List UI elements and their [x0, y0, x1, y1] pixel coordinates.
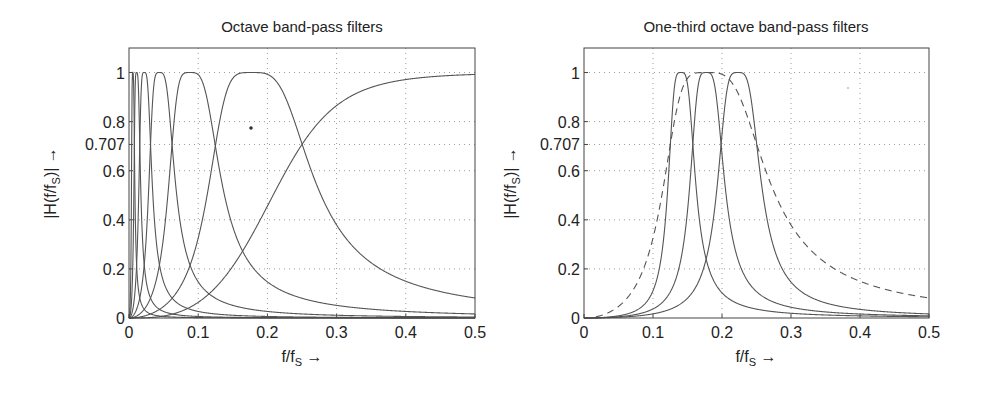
- x-tick-label: 0.4: [395, 324, 417, 341]
- right-chart-title: One-third octave band-pass filters: [643, 18, 868, 35]
- scan-speck: [847, 87, 849, 89]
- left-grid: [129, 48, 475, 318]
- x-tick-label: 0.2: [711, 324, 733, 341]
- filter-curve: [584, 73, 929, 318]
- x-tick-label: 0.1: [642, 324, 664, 341]
- y-tick-label: 0.8: [103, 114, 125, 131]
- filter-curve: [129, 73, 475, 318]
- filter-curve: [584, 73, 929, 318]
- filter-curve: [129, 73, 475, 318]
- x-tick-label: 0.3: [780, 324, 802, 341]
- x-tick-label: 0.2: [256, 324, 278, 341]
- right-x-tick-labels: 00.10.20.30.40.5: [580, 324, 941, 341]
- filter-curve: [129, 73, 475, 318]
- filter-curve: [584, 73, 929, 318]
- x-tick-label: 0.3: [325, 324, 347, 341]
- y-tick-label: 0.2: [103, 261, 125, 278]
- filter-curve: [129, 73, 475, 318]
- left-y-tick-labels: 00.20.40.60.7070.81: [85, 65, 125, 327]
- x-tick-label: 0.4: [849, 324, 871, 341]
- left-x-tick-labels: 00.10.20.30.40.5: [125, 324, 487, 341]
- filter-curve: [129, 73, 475, 318]
- left-chart: Octave band-pass filters 00.20.40.60.707…: [42, 18, 486, 368]
- x-tick-label: 0.5: [918, 324, 940, 341]
- filter-curve: [129, 74, 475, 318]
- x-tick-label: 0.1: [187, 324, 209, 341]
- left-x-axis-label: f/fS →: [281, 348, 322, 368]
- filter-curve: [584, 73, 929, 318]
- y-tick-label: 0.4: [103, 212, 125, 229]
- filter-curve: [129, 73, 475, 318]
- stray-marker-dot: [249, 126, 253, 130]
- right-y-tick-labels: 00.20.40.60.7070.81: [540, 65, 580, 327]
- y-tick-label: 0.6: [103, 163, 125, 180]
- right-grid: [584, 48, 929, 318]
- left-curves: [129, 73, 475, 318]
- y-tick-label: 1: [571, 65, 580, 82]
- y-tick-label: 0.4: [558, 212, 580, 229]
- right-curves: [584, 73, 929, 318]
- y-tick-label: 0.2: [558, 261, 580, 278]
- right-axes-box: [584, 48, 929, 318]
- right-x-axis-label: f/fS →: [735, 348, 776, 368]
- y-tick-label: 0.8: [558, 114, 580, 131]
- y-tick-label: 0.6: [558, 163, 580, 180]
- y-tick-label: 1: [116, 65, 125, 82]
- y-tick-label: 0.707: [540, 136, 580, 153]
- left-y-axis-label: |H(f/fS)| →: [42, 147, 62, 219]
- x-tick-label: 0: [580, 324, 589, 341]
- left-axes-box: [129, 48, 475, 318]
- right-y-axis-label: |H(f/fS)| →: [502, 147, 522, 219]
- figure: Octave band-pass filters 00.20.40.60.707…: [0, 0, 993, 396]
- y-tick-label: 0.707: [85, 136, 125, 153]
- x-tick-label: 0: [125, 324, 134, 341]
- left-chart-title: Octave band-pass filters: [221, 18, 383, 35]
- x-tick-label: 0.5: [464, 324, 486, 341]
- right-chart: One-third octave band-pass filters 00.20…: [502, 18, 940, 368]
